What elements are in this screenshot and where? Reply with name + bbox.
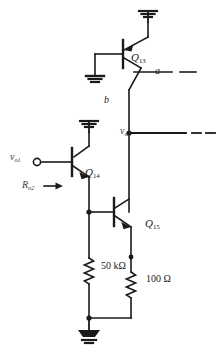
open-circle-terminal-vo1[interactable] — [33, 158, 40, 165]
label-node-a: a — [155, 66, 160, 76]
resistor-50k-zigzag — [84, 258, 93, 284]
circuit-diagram-figure: Q13 Q14 Q15 a b vo2 vo1 Ro2 50 kΩ 100 Ω — [0, 0, 224, 357]
transistor-q14 — [42, 148, 89, 177]
ground-icon-q14-collector — [80, 121, 98, 132]
label-resistor-100: 100 Ω — [146, 274, 171, 284]
label-vo2: vo2 — [120, 126, 131, 137]
ground-icon-q13-base — [86, 76, 104, 82]
label-q13: Q13 — [131, 52, 146, 64]
transistor-q15 — [89, 198, 131, 227]
label-q14: Q14 — [85, 167, 100, 179]
label-q15: Q15 — [145, 218, 160, 230]
resistor-100-zigzag — [126, 272, 135, 298]
label-node-b: b — [104, 95, 109, 105]
label-resistor-50k: 50 kΩ — [101, 261, 126, 271]
ground-icon-top — [139, 11, 157, 22]
label-vo1: vo1 — [10, 152, 21, 163]
circuit-schematic-canvas — [0, 0, 224, 357]
wire-q14-collector-diagonal — [74, 146, 89, 157]
right-arrow-icon-ro2 — [44, 183, 63, 190]
label-ro2: Ro2 — [22, 180, 34, 191]
ground-icon-bottom — [78, 330, 100, 343]
